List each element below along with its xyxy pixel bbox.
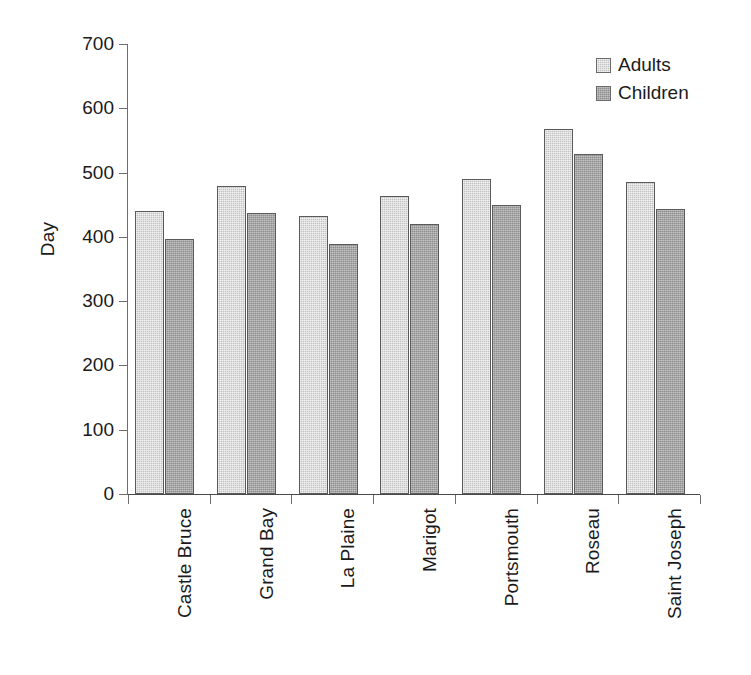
x-tick-mark bbox=[537, 495, 538, 504]
bar-adults-marigot bbox=[380, 196, 409, 494]
y-tick-mark bbox=[119, 237, 128, 238]
x-tick-mark bbox=[618, 495, 619, 504]
y-axis-tick-labels: 7006005004003002001000 bbox=[48, 0, 114, 675]
bar-children-grand-bay bbox=[247, 213, 276, 494]
x-category-label: Portsmouth bbox=[501, 508, 523, 606]
legend-label-adults: Adults bbox=[618, 54, 671, 76]
y-tick-mark bbox=[119, 494, 128, 495]
legend-item-children: Children bbox=[596, 80, 689, 106]
x-category-label: Castle Bruce bbox=[174, 508, 196, 618]
bar-group bbox=[537, 44, 619, 494]
x-tick-mark bbox=[210, 495, 211, 504]
x-axis-line bbox=[127, 494, 700, 495]
bar-children-la-plaine bbox=[329, 244, 358, 494]
plot-area bbox=[128, 44, 700, 494]
y-tick-mark bbox=[119, 108, 128, 109]
chart-legend: Adults Children bbox=[596, 52, 689, 108]
y-tick-label: 100 bbox=[52, 419, 114, 441]
bar-chart: Day 7006005004003002001000 Castle BruceG… bbox=[0, 0, 751, 675]
legend-label-children: Children bbox=[618, 82, 689, 104]
x-category-label: Grand Bay bbox=[256, 508, 278, 600]
bar-adults-roseau bbox=[544, 129, 573, 494]
bar-group bbox=[373, 44, 455, 494]
bar-group bbox=[128, 44, 210, 494]
y-tick-label: 500 bbox=[52, 162, 114, 184]
legend-item-adults: Adults bbox=[596, 52, 689, 78]
x-tick-mark bbox=[128, 495, 129, 504]
x-category-label: Marigot bbox=[419, 508, 441, 572]
x-tick-mark bbox=[700, 495, 701, 504]
bar-children-roseau bbox=[574, 154, 603, 494]
y-tick-label: 700 bbox=[52, 33, 114, 55]
x-tick-mark bbox=[291, 495, 292, 504]
bar-children-marigot bbox=[410, 224, 439, 494]
children-swatch-icon bbox=[596, 86, 611, 101]
bar-children-portsmouth bbox=[492, 205, 521, 494]
y-tick-label: 300 bbox=[52, 290, 114, 312]
bar-adults-la-plaine bbox=[299, 216, 328, 494]
bar-adults-castle-bruce bbox=[135, 211, 164, 494]
y-tick-mark bbox=[119, 44, 128, 45]
bar-group bbox=[291, 44, 373, 494]
y-tick-mark bbox=[119, 173, 128, 174]
x-category-label: La Plaine bbox=[337, 508, 359, 588]
y-tick-label: 200 bbox=[52, 354, 114, 376]
bar-children-castle-bruce bbox=[165, 239, 194, 494]
y-tick-label: 0 bbox=[52, 483, 114, 505]
bar-group bbox=[455, 44, 537, 494]
bar-children-saint-joseph bbox=[656, 209, 685, 494]
bar-adults-grand-bay bbox=[217, 186, 246, 494]
x-category-label: Roseau bbox=[582, 508, 604, 574]
y-tick-label: 400 bbox=[52, 226, 114, 248]
bar-adults-portsmouth bbox=[462, 179, 491, 494]
y-tick-mark bbox=[119, 301, 128, 302]
bar-group bbox=[210, 44, 292, 494]
bar-adults-saint-joseph bbox=[626, 182, 655, 494]
bar-group bbox=[618, 44, 700, 494]
x-category-label: Saint Joseph bbox=[664, 508, 686, 619]
adults-swatch-icon bbox=[596, 58, 611, 73]
x-tick-mark bbox=[455, 495, 456, 504]
y-tick-label: 600 bbox=[52, 97, 114, 119]
x-tick-mark bbox=[373, 495, 374, 504]
y-tick-mark bbox=[119, 430, 128, 431]
y-tick-mark bbox=[119, 365, 128, 366]
